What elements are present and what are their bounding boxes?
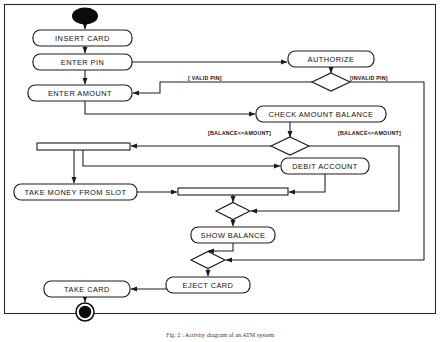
diagram-frame	[5, 5, 436, 314]
activity-enter-amount[interactable]: ENTER AMOUNT	[28, 85, 132, 101]
decision-pin	[312, 73, 350, 91]
activity-check-amount-balance[interactable]: CHECK AMOUNT BALANCE	[256, 106, 386, 122]
activity-enter-amount-label: ENTER AMOUNT	[48, 89, 112, 98]
edge-show-balance-to-decision-2	[208, 243, 233, 251]
activity-take-money-from-slot[interactable]: TAKE MONEY FROM SLOT	[14, 184, 137, 200]
activity-take-card-label: TAKE CARD	[64, 285, 110, 294]
guard-balance-ge-amount: [BALANCE<=AMOUNT]	[208, 130, 271, 136]
guard-invalid-pin: [INVALID PIN]	[350, 75, 388, 81]
activity-enter-pin[interactable]: ENTER PIN	[33, 54, 132, 70]
decision-merge-1	[216, 203, 250, 220]
decision-merge-2	[191, 252, 225, 269]
guard-balance-lt-amount: [BALANCE<=AMOUNT]	[338, 130, 401, 136]
edge-enter-amount-to-check-balance	[85, 101, 255, 114]
activity-authorize-label: AUTHORIZE	[308, 55, 355, 64]
guard-valid-pin: [ VALID PIN]	[188, 75, 222, 81]
activity-debit-account-label: DEBIT ACCOUNT	[292, 162, 358, 171]
uml-activity-diagram: INSERT CARD ENTER PIN ENTER AMOUNT AUTHO…	[0, 0, 440, 342]
edge-debit-account-to-merge-bar-lower	[289, 174, 325, 192]
activity-eject-card[interactable]: EJECT CARD	[166, 277, 250, 293]
activity-show-balance-label: SHOW BALANCE	[201, 231, 266, 240]
edge-merge-bar-to-debit-account	[83, 150, 280, 166]
activity-enter-pin-label: ENTER PIN	[61, 58, 104, 67]
figure-caption: Fig. 2 : Activity diagram of an ATM syst…	[166, 331, 274, 338]
activity-check-amount-balance-label: CHECK AMOUNT BALANCE	[269, 110, 374, 119]
start-node	[72, 8, 98, 25]
activity-authorize[interactable]: AUTHORIZE	[288, 51, 374, 67]
end-node	[76, 303, 94, 321]
activity-insert-card[interactable]: INSERT CARD	[33, 30, 132, 46]
decision-balance	[271, 137, 309, 155]
activity-diagram-page: INSERT CARD ENTER PIN ENTER AMOUNT AUTHO…	[0, 0, 440, 342]
merge-bar-upper	[37, 143, 130, 150]
edge-valid-pin-to-enter-amount	[133, 82, 312, 93]
merge-bar-lower	[178, 188, 288, 195]
activity-debit-account[interactable]: DEBIT ACCOUNT	[281, 158, 369, 174]
activity-take-money-from-slot-label: TAKE MONEY FROM SLOT	[25, 188, 127, 197]
activity-show-balance[interactable]: SHOW BALANCE	[191, 227, 275, 243]
activity-eject-card-label: EJECT CARD	[183, 281, 234, 290]
activity-take-card[interactable]: TAKE CARD	[44, 281, 130, 297]
activity-insert-card-label: INSERT CARD	[55, 34, 110, 43]
